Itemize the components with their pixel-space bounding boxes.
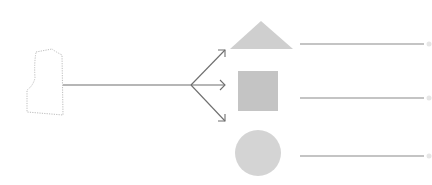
matching-diagram [0,0,432,185]
triangle-shape [230,21,293,49]
pattern-piece [27,49,63,115]
answer-end-dot [427,42,432,47]
circle-shape [235,130,281,176]
answer-end-dot [427,96,432,101]
arrow-up [191,50,225,85]
square-shape [238,71,278,111]
arrow-right [191,80,225,90]
arrow-down [191,85,225,121]
answer-end-dot [427,154,432,159]
